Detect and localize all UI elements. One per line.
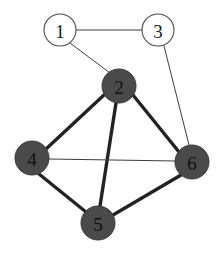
graph-edge-2-4 [46,95,104,149]
graph-node-2[interactable]: 2 [102,69,136,103]
graph-edge-3-6 [164,46,189,145]
graph-node-4[interactable]: 4 [15,141,49,175]
graph-node-6[interactable]: 6 [175,145,209,179]
graph-node-circle-6[interactable] [175,145,209,179]
graph-edge-2-6 [133,95,179,152]
graph-edge-1-2 [70,43,110,73]
graph-canvas: 123456 [0,0,222,256]
graph-node-circle-4[interactable] [15,141,49,175]
graph-node-1[interactable]: 1 [44,14,76,46]
graph-edge-5-6 [113,175,181,215]
graph-node-circle-3[interactable] [142,14,174,46]
graph-node-circle-5[interactable] [81,206,115,240]
graph-node-5[interactable]: 5 [81,206,115,240]
graph-edge-4-6 [49,159,175,161]
graph-node-3[interactable]: 3 [142,14,174,46]
graph-node-circle-1[interactable] [44,14,76,46]
graph-figure: 123456 [0,0,222,256]
graph-edge-4-5 [39,174,86,212]
edge-layer [39,30,189,215]
graph-edge-2-5 [100,103,116,206]
graph-node-circle-2[interactable] [102,69,136,103]
